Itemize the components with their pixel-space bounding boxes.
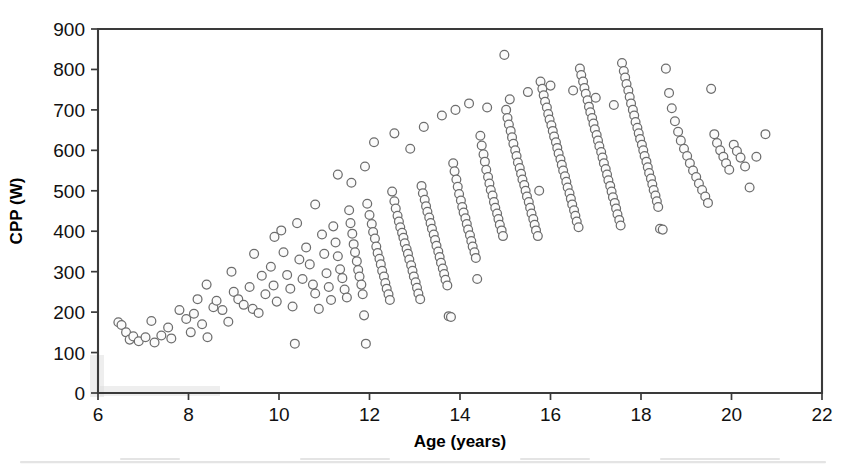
scatter-plot-figure: 0100200300400500600700800900 68101214161… [0,0,846,468]
data-point [574,223,583,232]
data-point [346,219,355,228]
data-point [365,211,374,220]
data-point [212,296,221,305]
data-point [358,290,367,299]
data-point [349,240,358,249]
data-point [707,84,716,93]
data-point [239,300,248,309]
scan-smudge-bottom [100,386,220,396]
data-point [609,101,618,110]
y-tick-label: 200 [53,302,85,323]
data-point [270,232,279,241]
data-point [385,296,394,305]
data-point [367,220,376,229]
data-point [164,323,173,332]
data-point [370,138,379,147]
data-point [157,331,166,340]
data-point [523,88,532,97]
data-point [674,127,683,136]
data-point [473,275,482,284]
data-point [451,105,460,114]
data-point [535,186,544,195]
data-point [202,280,211,289]
data-point [141,333,150,342]
data-point [254,309,263,318]
data-point [190,309,199,318]
data-point [302,243,311,252]
data-point [591,93,600,102]
data-point [476,131,485,140]
data-point [357,280,366,289]
page-bottom-artifact [20,458,826,463]
data-point [352,257,361,266]
plot-canvas: 0100200300400500600700800900 68101214161… [0,0,846,468]
data-point [261,290,270,299]
data-point [266,262,275,271]
data-point [298,275,307,284]
data-point [329,222,338,231]
x-tick-label: 22 [811,404,832,425]
data-point [311,200,320,209]
data-point [390,129,399,138]
data-point [388,187,397,196]
data-point [327,296,336,305]
data-point [331,238,340,247]
data-point [447,313,456,322]
y-axis-title: CPP (W) [7,178,26,245]
data-point [269,281,278,290]
y-tick-label: 500 [53,181,85,202]
data-point [618,59,627,68]
data-point [745,183,754,192]
data-point [658,225,667,234]
data-point [419,122,428,131]
data-point [283,271,292,280]
data-point [499,232,508,241]
data-point [471,254,480,263]
x-tick-label: 12 [359,404,380,425]
data-point [752,152,761,161]
data-point [502,105,511,114]
data-point [449,159,458,168]
data-point [500,50,509,59]
y-tick-label: 100 [53,343,85,364]
data-point [371,234,380,243]
data-point [198,320,207,329]
data-point [293,219,302,228]
y-tick-label: 400 [53,221,85,242]
data-point [186,328,195,337]
data-point [355,272,364,281]
data-point [665,89,674,98]
data-point [318,230,327,239]
data-point [465,99,474,108]
data-point [416,295,425,304]
data-point [320,249,329,258]
data-point [290,339,299,348]
y-tick-label: 900 [53,19,85,40]
data-point [314,304,323,313]
x-tick-label: 18 [630,404,651,425]
x-axis-title: Age (years) [414,432,507,451]
data-point [671,117,680,126]
data-point [324,283,333,292]
data-point [224,317,233,326]
data-point [311,289,320,298]
data-point [279,248,288,257]
data-point [167,334,176,343]
data-point [736,153,745,162]
data-point [250,249,259,258]
y-tick-label: 600 [53,140,85,161]
y-tick-label: 300 [53,262,85,283]
data-point [333,170,342,179]
y-axis-ticks: 0100200300400500600700800900 [53,19,98,404]
data-point [360,311,369,320]
data-point [342,293,351,302]
x-tick-label: 20 [721,404,742,425]
data-point [305,260,314,269]
data-point [175,306,184,315]
data-point [338,274,347,283]
data-point [147,317,156,326]
data-point [348,229,357,238]
data-point [361,339,370,348]
data-point [257,271,266,280]
data-point [505,95,514,104]
